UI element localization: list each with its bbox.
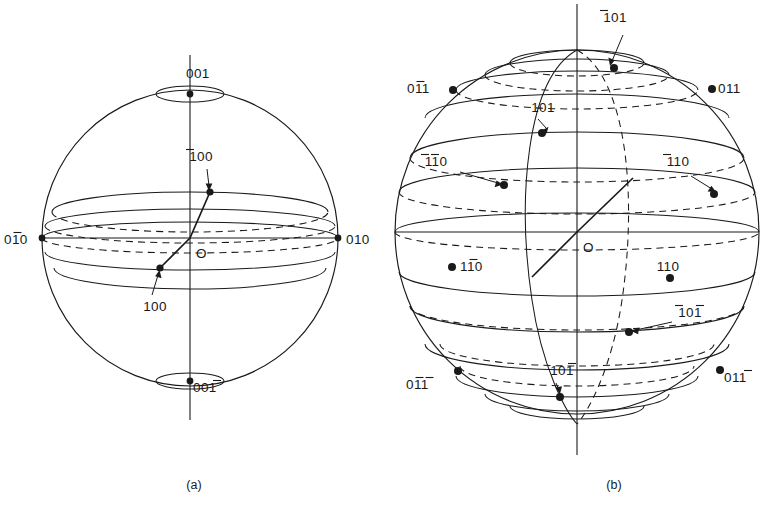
pole-dot-11bar0 [448, 263, 456, 271]
sphere-diagram-a: 001 100 010 010 100 001 O [0, 0, 380, 470]
pole-dot-1bar01 [610, 64, 618, 72]
pole-label-010: 010 [346, 232, 370, 247]
pole-label-100: 100 [143, 299, 167, 314]
pole-dot-011bar [716, 366, 724, 374]
pole-dot-0bar11 [449, 86, 457, 94]
pole-label-1bar01: 101 [600, 10, 627, 25]
pole-label-0bar10-text: 010 [4, 232, 28, 247]
pole-label-1bar10: 110 [663, 154, 689, 169]
pole-label-110: 110 [657, 259, 680, 274]
pole-dot-011 [708, 85, 716, 93]
pole-label-101: 101 [531, 100, 555, 115]
pole-label-0bar1bar1bar: 011 [406, 377, 434, 392]
pole-label-0bar11: 011 [407, 81, 430, 96]
pole-label-1bar1bar0-text: 110 [425, 154, 448, 169]
pole-label-11bar0: 110 [460, 259, 483, 274]
pole-label-1bar00-text: 100 [189, 149, 213, 164]
pole-label-011bar-text: 011 [724, 370, 747, 385]
pole-label-010-text: 010 [346, 232, 370, 247]
caption-panel-a: (a) [164, 478, 224, 492]
pole-dot-101bar [556, 393, 564, 401]
pole-label-1bar01bar-text: 101 [678, 305, 702, 320]
pole-label-101-text: 101 [531, 100, 555, 115]
pole-label-1bar00: 100 [186, 149, 213, 164]
pole-label-011: 011 [718, 81, 741, 96]
origin-label-b: O [583, 240, 594, 255]
pole-dot-001 [187, 91, 194, 98]
pole-dot-100 [156, 264, 163, 271]
pole-label-100-text: 100 [143, 299, 167, 314]
leader-arrow-1bar1bar0 [460, 172, 498, 183]
radius-vector-b [532, 178, 633, 277]
pole-label-1bar01bar: 101 [675, 305, 704, 320]
pole-dot-1bar00 [206, 188, 213, 195]
pole-label-0bar1bar1bar-text: 011 [406, 377, 429, 392]
caption-panel-b: (b) [584, 478, 644, 492]
pole-label-1bar10-text: 110 [667, 154, 690, 169]
pole-label-1bar1bar0: 110 [421, 154, 447, 169]
pole-label-11bar0-text: 110 [460, 259, 483, 274]
pole-label-001bar-text: 001 [193, 380, 217, 395]
pole-label-011bar: 011 [724, 370, 752, 385]
sphere-diagram-b: 101 011 011 101 110 110 110 110 [380, 0, 774, 470]
pole-label-011-text: 011 [718, 81, 741, 96]
pole-label-001bar: 001 [193, 380, 221, 395]
pole-dot-0bar10 [39, 235, 46, 242]
leader-arrow-1bar10 [691, 176, 712, 189]
pole-label-0bar11-text: 011 [407, 81, 430, 96]
leader-arrow-1bar01 [612, 35, 623, 61]
meridian-back-b [577, 50, 629, 424]
pole-label-1bar01-text: 101 [603, 10, 627, 25]
pole-label-001: 001 [186, 66, 210, 81]
pole-dot-110 [666, 274, 674, 282]
pole-dot-010 [335, 235, 342, 242]
leader-arrow-100 [152, 275, 158, 295]
pole-label-0bar10: 010 [4, 232, 28, 247]
leader-arrow-101 [538, 119, 546, 128]
origin-label-a: O [196, 246, 207, 261]
pole-label-110-text: 110 [657, 259, 680, 274]
pole-dot-0bar1bar1bar [454, 367, 462, 375]
pole-dot-1bar01bar [625, 328, 633, 336]
pole-label-101bar-text: 101 [550, 363, 574, 378]
figure-root: 001 100 010 010 100 001 O [0, 0, 774, 510]
pole-label-101bar: 101 [550, 363, 576, 378]
pole-label-001-text: 001 [186, 66, 210, 81]
